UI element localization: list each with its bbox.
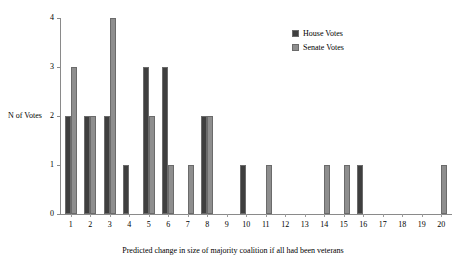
x-tick-mark	[305, 214, 306, 217]
x-tick-label: 15	[334, 220, 354, 229]
x-tick-mark	[168, 214, 169, 217]
x-tick-label: 12	[275, 220, 295, 229]
bar-senate-5	[149, 116, 155, 214]
bar-senate-8	[207, 116, 213, 214]
x-tick-label: 16	[353, 220, 373, 229]
y-tick-label: 1	[40, 161, 54, 169]
x-tick-mark	[402, 214, 403, 217]
x-tick-mark	[324, 214, 325, 217]
bar-senate-2	[90, 116, 96, 214]
y-tick-label: 0	[40, 210, 54, 218]
x-tick-label: 3	[100, 220, 120, 229]
x-tick-mark	[363, 214, 364, 217]
chart-legend: House Votes Senate Votes	[292, 28, 402, 56]
y-axis-label: N of Votes	[8, 112, 42, 120]
x-axis-line	[60, 214, 452, 215]
legend-swatch-house-icon	[292, 30, 299, 37]
x-tick-label: 2	[80, 220, 100, 229]
x-tick-label: 7	[178, 220, 198, 229]
x-tick-label: 8	[197, 220, 217, 229]
x-tick-mark	[227, 214, 228, 217]
x-tick-label: 5	[139, 220, 159, 229]
bar-senate-7	[188, 165, 194, 214]
bar-house-4	[123, 165, 129, 214]
y-tick-mark	[57, 214, 60, 215]
bar-senate-20	[441, 165, 447, 214]
y-tick-label: 2	[40, 112, 54, 120]
x-tick-mark	[110, 214, 111, 217]
x-tick-mark	[344, 214, 345, 217]
x-tick-mark	[422, 214, 423, 217]
y-tick-label: 3	[40, 63, 54, 71]
y-tick-mark	[57, 18, 60, 19]
legend-item-senate: Senate Votes	[292, 42, 402, 53]
x-tick-mark	[266, 214, 267, 217]
x-tick-label: 1	[61, 220, 81, 229]
x-tick-label: 18	[392, 220, 412, 229]
x-tick-mark	[149, 214, 150, 217]
x-tick-mark	[129, 214, 130, 217]
legend-label-house: House Votes	[303, 29, 343, 38]
x-tick-mark	[207, 214, 208, 217]
x-tick-label: 14	[314, 220, 334, 229]
legend-label-senate: Senate Votes	[303, 43, 344, 52]
legend-item-house: House Votes	[292, 28, 402, 39]
bar-senate-6	[168, 165, 174, 214]
x-tick-mark	[441, 214, 442, 217]
x-tick-label: 20	[431, 220, 451, 229]
x-tick-mark	[285, 214, 286, 217]
x-tick-label: 10	[236, 220, 256, 229]
bar-house-16	[357, 165, 363, 214]
x-tick-label: 13	[295, 220, 315, 229]
x-tick-label: 6	[158, 220, 178, 229]
x-tick-mark	[90, 214, 91, 217]
y-tick-mark	[57, 116, 60, 117]
x-tick-mark	[71, 214, 72, 217]
x-tick-label: 19	[412, 220, 432, 229]
bar-house-10	[240, 165, 246, 214]
y-tick-mark	[57, 67, 60, 68]
y-tick-mark	[57, 165, 60, 166]
x-tick-label: 4	[119, 220, 139, 229]
bar-senate-15	[344, 165, 350, 214]
bar-senate-3	[110, 18, 116, 214]
x-tick-label: 11	[256, 220, 276, 229]
x-tick-label: 9	[217, 220, 237, 229]
bar-senate-1	[71, 67, 77, 214]
bar-senate-14	[324, 165, 330, 214]
x-tick-mark	[246, 214, 247, 217]
x-axis-label: Predicted change in size of majority coa…	[0, 246, 466, 255]
y-tick-label: 4	[40, 14, 54, 22]
bar-senate-11	[266, 165, 272, 214]
x-tick-mark	[383, 214, 384, 217]
bar-chart: 01234 N of Votes 12345678910111213141516…	[0, 0, 466, 266]
x-tick-label: 17	[373, 220, 393, 229]
legend-swatch-senate-icon	[292, 44, 299, 51]
x-tick-mark	[188, 214, 189, 217]
